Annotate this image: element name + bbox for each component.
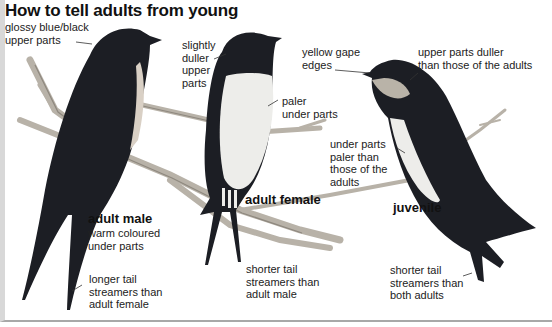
adult-female-tail-note: shorter tail streamers than adult male — [246, 263, 319, 301]
juvenile-label: juvenile — [393, 200, 441, 215]
adult-male-label: adult male — [88, 211, 152, 226]
adult-male-bird — [22, 28, 162, 310]
juvenile-bird — [362, 60, 536, 282]
juvenile-tail-note: shorter tail streamers than both adults — [390, 264, 463, 302]
adult-male-tail-note: longer tail streamers than adult female — [89, 273, 162, 311]
juvenile-upper-parts-note: upper parts duller than those of the adu… — [418, 46, 532, 71]
adult-male-upper-parts-note: glossy blue/black upper parts — [5, 21, 89, 46]
juvenile-gape-note: yellow gape edges — [302, 46, 360, 71]
adult-female-under-parts-note: paler under parts — [282, 95, 338, 120]
page-title: How to tell adults from young — [5, 1, 238, 21]
adult-female-upper-parts-note: slightly duller upper parts — [182, 39, 216, 89]
adult-male-under-parts-note: warm coloured under parts — [88, 227, 160, 252]
juvenile-under-parts-note: under parts paler than those of the adul… — [330, 138, 388, 188]
adult-female-label: adult female — [245, 192, 321, 207]
